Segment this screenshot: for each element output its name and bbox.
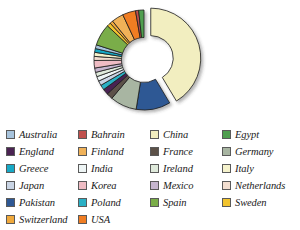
legend-label: Mexico <box>163 177 193 194</box>
pie-slices <box>94 8 201 110</box>
legend-swatch-icon <box>6 130 15 139</box>
legend-label: USA <box>91 211 110 228</box>
legend-item-pakistan[interactable]: Pakistan <box>6 194 78 211</box>
legend-swatch-icon <box>78 181 87 190</box>
legend-item-japan[interactable]: Japan <box>6 177 78 194</box>
legend-swatch-icon <box>6 181 15 190</box>
legend-swatch-icon <box>222 198 231 207</box>
legend-swatch-icon <box>222 164 231 173</box>
legend-label: England <box>19 143 54 160</box>
legend-label: Ireland <box>163 160 193 177</box>
legend-swatch-icon <box>6 164 15 173</box>
chart-title <box>0 0 300 1</box>
legend-label: Pakistan <box>19 194 55 211</box>
legend-swatch-icon <box>222 181 231 190</box>
legend-grid: AustraliaBahrainChinaEgyptEnglandFinland… <box>6 126 296 228</box>
legend-swatch-icon <box>150 181 159 190</box>
legend-item-bahrain[interactable]: Bahrain <box>78 126 150 143</box>
legend-swatch-icon <box>150 130 159 139</box>
legend-item-netherlands[interactable]: Netherlands <box>222 177 298 194</box>
legend-item-greece[interactable]: Greece <box>6 160 78 177</box>
chart-legend: AustraliaBahrainChinaEgyptEnglandFinland… <box>0 122 300 230</box>
legend-label: India <box>91 160 113 177</box>
legend-item-italy[interactable]: Italy <box>222 160 298 177</box>
legend-label: Italy <box>235 160 254 177</box>
legend-label: Greece <box>19 160 48 177</box>
legend-swatch-icon <box>78 147 87 156</box>
legend-item-china[interactable]: China <box>150 126 222 143</box>
legend-label: China <box>163 126 188 143</box>
legend-label: Korea <box>91 177 116 194</box>
legend-item-france[interactable]: France <box>150 143 222 160</box>
legend-item-germany[interactable]: Germany <box>222 143 298 160</box>
legend-swatch-icon <box>150 147 159 156</box>
legend-swatch-icon <box>6 147 15 156</box>
legend-swatch-icon <box>150 198 159 207</box>
donut-chart <box>88 2 212 120</box>
legend-item-india[interactable]: India <box>78 160 150 177</box>
legend-item-mexico[interactable]: Mexico <box>150 177 222 194</box>
legend-item-england[interactable]: England <box>6 143 78 160</box>
legend-label: Finland <box>91 143 124 160</box>
legend-item-usa[interactable]: USA <box>78 211 150 228</box>
legend-label: Poland <box>91 194 121 211</box>
legend-swatch-icon <box>78 215 87 224</box>
legend-swatch-icon <box>6 215 15 224</box>
legend-item-ireland[interactable]: Ireland <box>150 160 222 177</box>
legend-swatch-icon <box>150 164 159 173</box>
chart-area <box>0 0 300 120</box>
legend-label: Egypt <box>235 126 259 143</box>
legend-label: France <box>163 143 193 160</box>
legend-label: Spain <box>163 194 186 211</box>
legend-swatch-icon <box>78 130 87 139</box>
legend-label: Japan <box>19 177 44 194</box>
legend-swatch-icon <box>78 198 87 207</box>
legend-swatch-icon <box>222 130 231 139</box>
legend-item-spain[interactable]: Spain <box>150 194 222 211</box>
legend-label: Bahrain <box>91 126 125 143</box>
legend-item-switzerland[interactable]: Switzerland <box>6 211 78 228</box>
legend-swatch-icon <box>222 147 231 156</box>
legend-label: Netherlands <box>235 177 285 194</box>
legend-item-australia[interactable]: Australia <box>6 126 78 143</box>
legend-swatch-icon <box>78 164 87 173</box>
legend-label: Sweden <box>235 194 266 211</box>
legend-item-sweden[interactable]: Sweden <box>222 194 298 211</box>
legend-item-egypt[interactable]: Egypt <box>222 126 298 143</box>
legend-label: Australia <box>19 126 57 143</box>
legend-item-poland[interactable]: Poland <box>78 194 150 211</box>
legend-label: Germany <box>235 143 273 160</box>
pie-slice-pakistan[interactable] <box>136 79 170 110</box>
legend-swatch-icon <box>6 198 15 207</box>
legend-item-korea[interactable]: Korea <box>78 177 150 194</box>
legend-label: Switzerland <box>19 211 68 228</box>
legend-item-finland[interactable]: Finland <box>78 143 150 160</box>
